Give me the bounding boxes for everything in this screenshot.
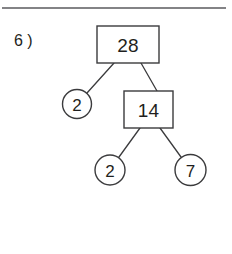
node-left-child: 2: [63, 90, 92, 119]
node-grandchild-left-label: 2: [105, 162, 114, 181]
binary-tree-diagram: 6 ) 28 2 14 2 7: [0, 0, 232, 254]
worksheet-page: 6 ) 28 2 14 2 7: [0, 0, 232, 254]
node-right-child-label: 14: [138, 100, 160, 121]
node-root: 28: [97, 26, 159, 63]
node-grandchild-right-label: 7: [186, 162, 195, 181]
node-right-child: 14: [124, 91, 173, 128]
node-grandchild-right: 7: [175, 155, 206, 186]
node-root-label: 28: [117, 35, 139, 56]
node-grandchild-left: 2: [95, 155, 125, 185]
item-number-label: 6 ): [14, 32, 33, 49]
edge-right-child-to-grandchild-right: [160, 128, 181, 157]
edge-right-child-to-grandchild-left: [119, 128, 140, 157]
edge-root-to-right-child: [141, 63, 157, 91]
node-left-child-label: 2: [72, 96, 81, 115]
edge-root-to-left-child: [87, 63, 114, 93]
